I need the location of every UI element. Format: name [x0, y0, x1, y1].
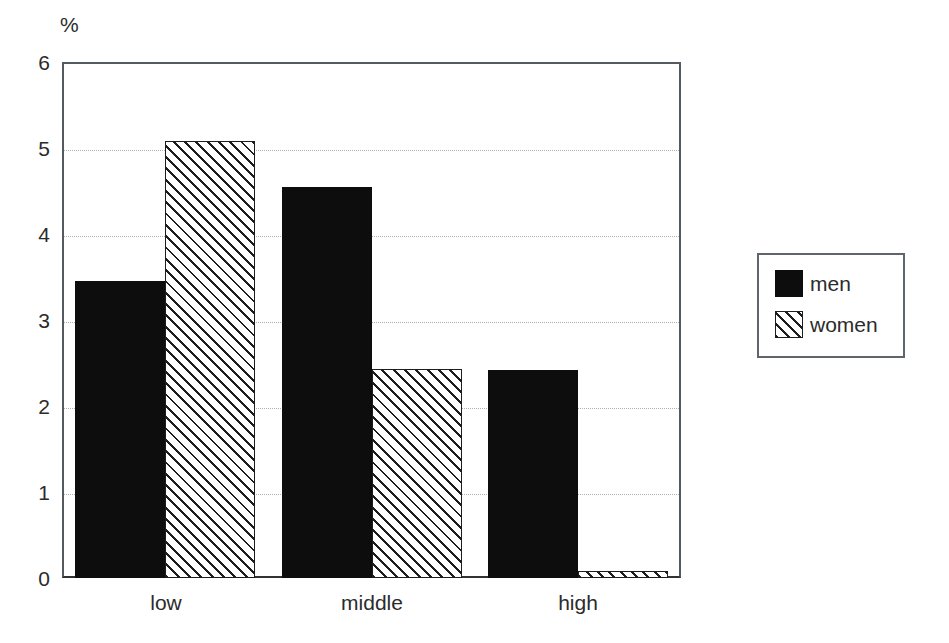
x-axis-tick-labels: low middle high	[62, 592, 681, 626]
legend-swatch-men-icon	[775, 270, 803, 297]
gridline-3	[64, 322, 679, 323]
y-tick-5: 5	[38, 138, 50, 159]
x-tick-middle: middle	[341, 592, 403, 613]
x-tick-low: low	[150, 592, 182, 613]
x-tick-high: high	[558, 592, 598, 613]
y-tick-1: 1	[38, 482, 50, 503]
legend-item-men: men	[775, 270, 851, 297]
y-tick-0: 0	[38, 568, 50, 589]
legend: men women	[757, 253, 905, 358]
gridline-2	[64, 408, 679, 409]
y-axis-tick-labels: 6 5 4 3 2 1 0	[0, 0, 50, 643]
chart-page: % 6 5 4 3 2 1 0 low middle high men wome…	[0, 0, 949, 643]
plot-area	[62, 62, 681, 578]
legend-item-women: women	[775, 311, 878, 338]
gridline-5	[64, 150, 679, 151]
gridline-1	[64, 494, 679, 495]
legend-swatch-women-icon	[775, 311, 803, 338]
y-tick-6: 6	[38, 52, 50, 73]
gridline-4	[64, 236, 679, 237]
legend-label-women: women	[810, 314, 878, 335]
y-tick-4: 4	[38, 224, 50, 245]
y-tick-3: 3	[38, 310, 50, 331]
legend-label-men: men	[810, 273, 851, 294]
y-axis-unit-label: %	[60, 14, 79, 35]
y-tick-2: 2	[38, 396, 50, 417]
